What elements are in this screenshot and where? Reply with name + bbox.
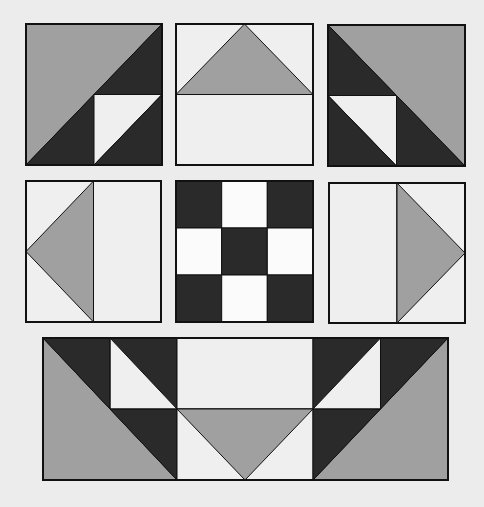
patch-white bbox=[176, 228, 222, 275]
patch-light bbox=[329, 183, 397, 323]
patch-dark bbox=[267, 275, 313, 322]
patch-white bbox=[222, 275, 268, 322]
middle-right-block bbox=[329, 183, 465, 323]
center-nine-patch-block bbox=[176, 181, 313, 322]
patch-dark bbox=[267, 181, 313, 228]
quilt-block-diagram bbox=[0, 0, 484, 507]
patch-white bbox=[222, 181, 268, 228]
patch-dark bbox=[222, 228, 268, 275]
patch-light bbox=[177, 338, 313, 409]
patch-light bbox=[94, 181, 162, 322]
middle-left-block bbox=[26, 181, 161, 322]
patch-light bbox=[176, 95, 313, 166]
top-left-block bbox=[26, 24, 162, 165]
patch-dark bbox=[176, 275, 222, 322]
bottom-wide-block bbox=[43, 338, 448, 480]
patch-white bbox=[267, 228, 313, 275]
blocks-layer bbox=[26, 24, 465, 480]
top-right-block bbox=[328, 25, 465, 166]
patch-dark bbox=[176, 181, 222, 228]
top-center-block bbox=[176, 24, 313, 165]
